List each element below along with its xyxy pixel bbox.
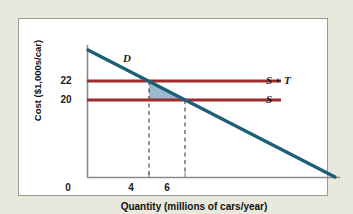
deadweight-loss-triangle — [149, 81, 185, 100]
supply-curve-label: S — [266, 93, 272, 105]
demand-curve-label: D — [123, 52, 131, 64]
figure-root: Cost ($1,000s/car) 22 20 0 4 6 D S + T S… — [0, 0, 353, 214]
x-tick-label-6: 6 — [156, 182, 178, 193]
x-tick-label-0: 0 — [57, 182, 79, 193]
demand-line — [88, 50, 335, 177]
x-tick-label-4: 4 — [120, 182, 142, 193]
y-tick-label-20: 20 — [55, 94, 77, 105]
y-tick-label-22: 22 — [55, 75, 77, 86]
supply-plus-tax-label: S + T — [266, 74, 291, 86]
x-axis-title: Quantity (millions of cars/year) — [49, 201, 339, 212]
y-axis-title: Cost ($1,000s/car) — [32, 26, 43, 136]
chart-panel: Cost ($1,000s/car) 22 20 0 4 6 D S + T S… — [18, 18, 328, 196]
